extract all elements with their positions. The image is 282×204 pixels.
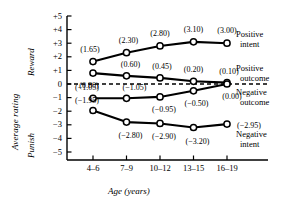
- y-tick-label: −4: [40, 134, 62, 143]
- data-point-value-label: (−1.05): [123, 83, 147, 92]
- y-tick-label: −2: [40, 107, 62, 116]
- data-point-value-label: (0.20): [184, 65, 203, 74]
- series-label-positive-outcome: Positiveoutcome: [236, 64, 269, 83]
- x-tick-label: 16–19: [216, 163, 237, 173]
- data-point-value-label: (3.00): [217, 26, 236, 35]
- data-point-value-label: (−0.95): [152, 104, 176, 113]
- series-label-negative-intent: Negativeintent: [236, 130, 267, 149]
- y-tick-label: −1: [40, 93, 62, 102]
- y-tick-label: −5: [40, 148, 62, 157]
- series-label-line2: intent: [240, 40, 263, 50]
- data-point-value-label: (−2.80): [119, 131, 143, 140]
- y-tick-label: +5: [40, 12, 62, 21]
- series-label-negative-outcome: Negativeoutcome: [236, 88, 269, 107]
- data-point-value-label: (−2.90): [152, 132, 176, 141]
- y-tick-label: +4: [40, 25, 62, 34]
- data-point-value-label: (−1.95): [75, 95, 99, 104]
- data-point-value-label: (2.80): [150, 28, 169, 37]
- series-label-line2: outcome: [240, 98, 269, 108]
- data-point-value-label: (1.65): [80, 44, 99, 53]
- y-tick-label: +3: [40, 39, 62, 48]
- x-tick-label: 13–15: [183, 163, 204, 173]
- data-point-value-label: (−1.05): [75, 83, 99, 92]
- data-point-value-label: (2.30): [119, 35, 138, 44]
- x-tick-label: 10–12: [149, 163, 170, 173]
- y-tick-label: −3: [40, 120, 62, 129]
- data-point-value-label: (−0.50): [185, 98, 209, 107]
- x-tick-label: 4–6: [87, 163, 100, 173]
- y-tick-label: 0: [40, 80, 62, 89]
- data-point-value-label: (0.60): [121, 59, 140, 68]
- data-point-value-label: (0.45): [152, 61, 171, 70]
- y-tick-label: +2: [40, 52, 62, 61]
- data-point-value-label: (−3.20): [186, 136, 210, 145]
- label-layer: +5+4+3+2+10−1−2−3−4−54–67–910–1213–1516–…: [0, 0, 282, 204]
- x-tick-label: 7–9: [120, 163, 133, 173]
- series-label-line2: outcome: [240, 74, 269, 84]
- series-label-positive-intent: Positiveintent: [236, 30, 263, 49]
- chart-figure: Average rating Reward Punish Age (years)…: [0, 0, 282, 204]
- y-tick-label: +1: [40, 66, 62, 75]
- series-label-line2: intent: [240, 140, 267, 150]
- data-point-value-label: (3.10): [184, 24, 203, 33]
